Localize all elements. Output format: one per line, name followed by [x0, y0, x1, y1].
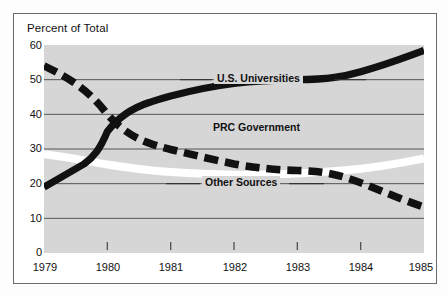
x-axis-label-1982: 1982 [215, 261, 255, 273]
y-axis-label-10: 10 [20, 212, 42, 224]
series-label-us-universities: U.S. Universities [214, 72, 303, 84]
y-axis-label-0: 0 [20, 246, 42, 258]
chart-title: Percent of Total [27, 22, 108, 34]
x-axis-label-1979: 1979 [25, 261, 65, 273]
x-axis-label-1983: 1983 [278, 261, 318, 273]
y-axis-label-40: 40 [20, 108, 42, 120]
y-axis-label-60: 60 [20, 39, 42, 51]
x-axis-label-1984: 1984 [341, 261, 381, 273]
series-label-other-sources: Other Sources [202, 176, 280, 188]
series-label-prc-government: PRC Government [210, 121, 303, 133]
y-axis-label-50: 50 [20, 73, 42, 85]
y-axis-label-20: 20 [20, 177, 42, 189]
plot-area: U.S. Universities PRC Government Other S… [44, 45, 424, 253]
x-axis-label-1985: 1985 [401, 261, 441, 273]
x-axis-label-1980: 1980 [88, 261, 128, 273]
y-axis-label-30: 30 [20, 142, 42, 154]
x-axis-label-1981: 1981 [151, 261, 191, 273]
chart-figure: Percent of Total 60 50 40 30 20 10 0 197… [0, 0, 447, 295]
